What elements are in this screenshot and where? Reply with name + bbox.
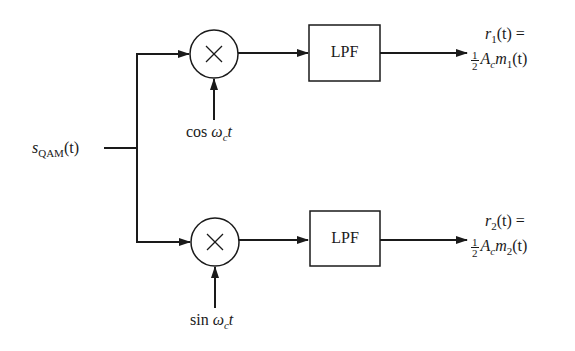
carrier-var: t	[228, 123, 232, 140]
msg: m	[495, 50, 507, 67]
frac-den: 2	[471, 248, 479, 258]
carrier-var: t	[229, 311, 233, 328]
upper-lpf-label: LPF	[309, 43, 380, 61]
half-fraction: 12	[471, 237, 479, 258]
msg: m	[495, 237, 507, 254]
msg-arg: (t)	[512, 50, 527, 67]
upper-carrier-label: cos ωct	[186, 123, 232, 146]
carrier-fn: sin	[190, 311, 209, 328]
lower-carrier-label: sin ωct	[190, 311, 233, 334]
lower-lpf-label: LPF	[310, 229, 380, 247]
carrier-omega: ω	[213, 311, 224, 328]
half-fraction: 12	[471, 50, 479, 71]
input-arg: (t)	[64, 139, 79, 156]
lower-output-label: r2(t) = 12Acm2(t)	[471, 211, 527, 261]
amp: A	[481, 50, 491, 67]
msg-arg: (t)	[512, 237, 527, 254]
lower-multiplier	[191, 218, 239, 266]
upper-multiplier	[190, 30, 238, 78]
output-arg: (t) =	[497, 212, 525, 229]
input-subscript: QAM	[38, 147, 64, 159]
frac-den: 2	[471, 61, 479, 71]
carrier-fn: cos	[186, 123, 207, 140]
input-signal-label: sQAM(t)	[32, 139, 79, 162]
amp: A	[481, 237, 491, 254]
output-arg: (t) =	[497, 25, 525, 42]
carrier-omega: ω	[211, 123, 222, 140]
upper-output-label: r1(t) = 12Acm1(t)	[471, 24, 527, 74]
